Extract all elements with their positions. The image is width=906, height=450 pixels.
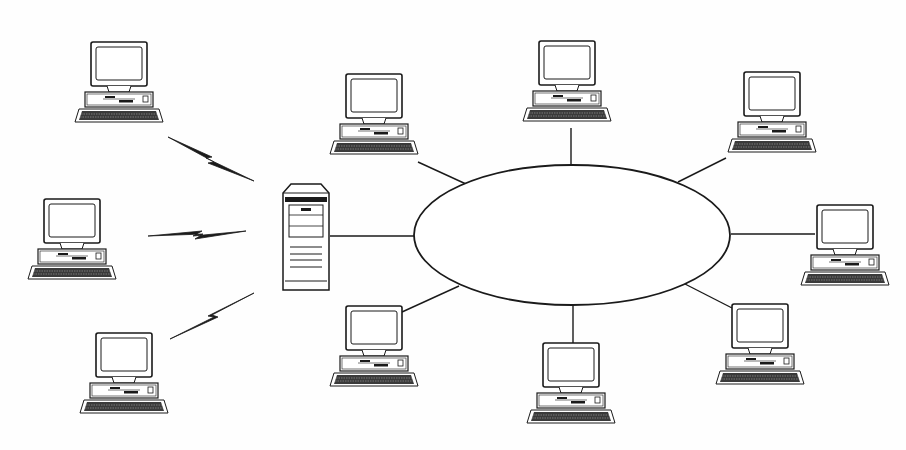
lan-ws-top-right-workstation xyxy=(728,72,816,152)
lan-ws-top-left-workstation xyxy=(330,74,418,154)
wireless-client-1-workstation xyxy=(75,42,163,122)
wireless-links xyxy=(148,137,254,339)
wireless-bolt-2 xyxy=(148,231,246,239)
link-ws-bottom-left xyxy=(402,286,459,312)
wireless-client-2-workstation xyxy=(28,199,116,279)
lan-ws-bottom-workstation xyxy=(527,343,615,423)
lan-ws-bottom-left-workstation xyxy=(330,306,418,386)
diagram-canvas xyxy=(0,0,906,450)
wireless-bolt-1 xyxy=(168,137,254,181)
lan-ws-bottom-right-workstation xyxy=(716,304,804,384)
link-ws-top-right xyxy=(678,158,726,182)
server-tower xyxy=(283,184,329,290)
link-ws-bottom-right xyxy=(685,284,732,308)
lan-ws-top-workstation xyxy=(523,41,611,121)
lan-ring xyxy=(414,165,730,305)
network-diagram xyxy=(0,0,906,450)
link-ws-top-left xyxy=(418,162,466,184)
wireless-bolt-3 xyxy=(170,293,254,339)
lan-ws-right-workstation xyxy=(801,205,889,285)
wireless-client-3-workstation xyxy=(80,333,168,413)
